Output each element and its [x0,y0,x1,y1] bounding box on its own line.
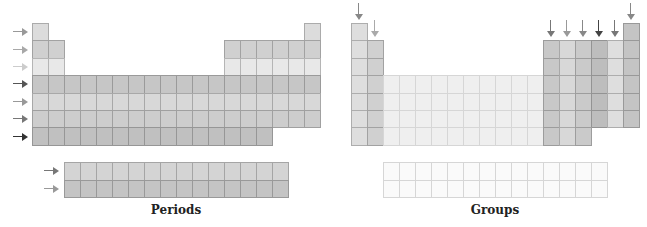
element-cell [479,110,496,128]
element-cell [559,40,576,58]
element-cell [128,127,145,145]
f-block-cell [272,162,289,181]
element-cell [447,93,464,111]
f-block-cell [447,180,464,199]
element-cell [591,75,608,93]
element-cell [256,110,273,128]
element-cell [543,93,560,111]
element-cell [575,127,592,145]
element-cell [575,110,592,128]
element-cell [383,75,400,93]
element-cell [351,58,368,76]
element-cell [128,110,145,128]
element-cell [112,93,129,111]
f-block-cell [272,180,289,199]
f-block-cell [511,162,528,181]
element-cell [415,110,432,128]
group-arrow-icon [582,20,584,36]
f-block-cell [96,162,113,181]
element-cell [447,127,464,145]
element-cell [351,23,368,41]
element-cell [112,75,129,93]
element-cell [224,110,241,128]
element-cell [527,110,544,128]
element-cell [32,127,49,145]
element-cell [64,110,81,128]
element-cell [48,93,65,111]
element-cell [351,110,368,128]
element-cell [192,75,209,93]
element-cell [431,75,448,93]
element-cell [256,75,273,93]
element-cell [575,40,592,58]
f-block-cell [447,162,464,181]
f-block-cell [192,180,209,199]
element-cell [367,127,384,145]
element-cell [415,127,432,145]
element-cell [48,58,65,76]
period-arrow-icon [44,188,58,190]
element-cell [240,93,257,111]
group-arrow-icon [630,3,632,19]
element-cell [64,127,81,145]
element-cell [415,93,432,111]
period-arrow-icon [13,136,27,138]
f-block-cell [176,180,193,199]
element-cell [128,75,145,93]
element-cell [399,110,416,128]
group-arrow-icon [374,20,376,36]
element-cell [367,93,384,111]
f-block-cell [240,162,257,181]
element-cell [48,127,65,145]
element-cell [128,93,145,111]
element-cell [479,93,496,111]
element-cell [575,58,592,76]
element-cell [272,93,289,111]
element-cell [208,110,225,128]
element-cell [112,110,129,128]
element-cell [32,75,49,93]
element-cell [272,40,289,58]
f-block-cell [575,162,592,181]
element-cell [399,75,416,93]
element-cell [367,58,384,76]
f-block-cell [112,162,129,181]
element-cell [32,93,49,111]
element-cell [559,58,576,76]
element-cell [240,127,257,145]
element-cell [399,93,416,111]
group-arrow-icon [550,20,552,36]
f-block-cell [431,180,448,199]
element-cell [144,110,161,128]
element-cell [447,110,464,128]
element-cell [208,75,225,93]
f-block-cell [224,162,241,181]
element-cell [415,75,432,93]
element-cell [575,93,592,111]
element-cell [543,75,560,93]
element-cell [224,127,241,145]
period-arrow-icon [44,170,58,172]
element-cell [176,93,193,111]
element-cell [208,93,225,111]
element-cell [240,75,257,93]
group-arrow-icon [358,3,360,19]
period-arrow-icon [13,66,27,68]
element-cell [32,23,49,41]
element-cell [80,75,97,93]
element-cell [623,110,640,128]
element-cell [351,127,368,145]
f-block-cell [495,180,512,199]
f-block-cell [256,180,273,199]
f-block-cell [128,180,145,199]
f-block-cell [383,180,400,199]
element-cell [495,127,512,145]
element-cell [463,110,480,128]
f-block-cell [96,180,113,199]
element-cell [623,40,640,58]
element-cell [240,110,257,128]
element-cell [192,127,209,145]
element-cell [479,127,496,145]
element-cell [192,110,209,128]
element-cell [32,110,49,128]
